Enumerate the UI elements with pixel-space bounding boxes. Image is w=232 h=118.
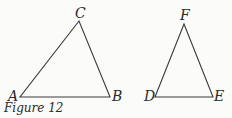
figure: A B C D E F Figure 12 [0, 0, 232, 118]
vertex-label-c: C [75, 6, 86, 20]
vertex-label-d: D [144, 89, 155, 103]
triangle-abc [20, 21, 110, 97]
triangle-def [155, 24, 213, 97]
figure-caption: Figure 12 [4, 102, 64, 114]
vertex-label-e: E [214, 89, 224, 103]
vertex-label-f: F [180, 8, 190, 22]
vertex-label-b: B [112, 89, 122, 103]
